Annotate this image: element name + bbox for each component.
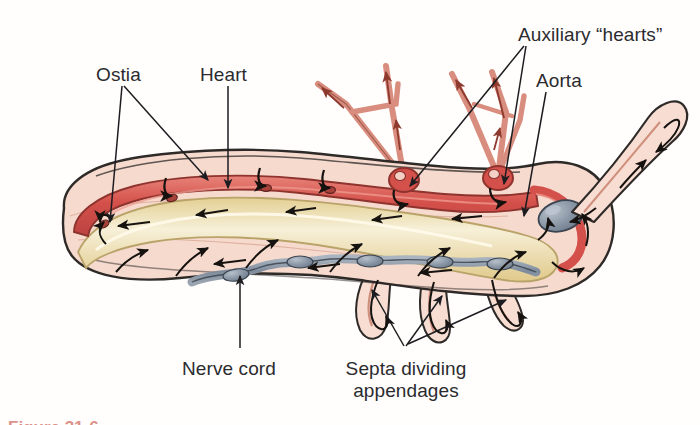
label-aorta: Aorta (536, 70, 582, 92)
label-auxiliary-hearts: Auxiliary “hearts” (518, 24, 662, 46)
antenna (570, 102, 687, 222)
label-heart: Heart (200, 64, 247, 86)
figure-root: Ostia Heart Auxiliary “hearts” Aorta Ner… (0, 0, 700, 425)
label-septa-dividing-appendages: Septa dividing appendages (290, 358, 522, 402)
figure-caption-partial: Figure 31-6 (8, 419, 198, 425)
label-ostia: Ostia (96, 64, 141, 86)
label-nerve-cord: Nerve cord (182, 358, 276, 380)
